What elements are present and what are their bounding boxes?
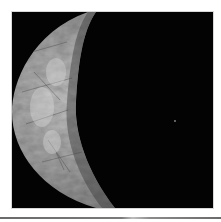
star-point	[174, 120, 176, 122]
crescent-moon-image	[12, 12, 213, 208]
moon-image-frame	[12, 12, 213, 208]
bottom-divider	[0, 217, 221, 219]
